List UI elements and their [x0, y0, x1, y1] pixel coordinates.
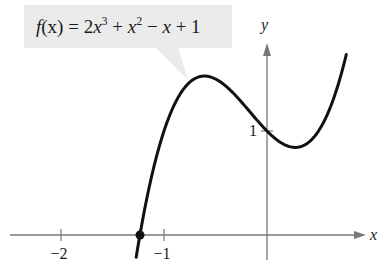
callout-formula: f(x) = 2x3 + x2 − x + 1	[36, 14, 201, 38]
formula-eq: = 2	[63, 16, 93, 37]
chart: f(x) = 2x3 + x2 − x + 1 x y −2−11	[0, 0, 388, 278]
formula-plus1: +	[108, 16, 128, 37]
x-tick-label: −1	[153, 245, 170, 262]
x-tick-label: −2	[50, 245, 67, 262]
y-axis-label: y	[259, 16, 269, 34]
function-curve	[136, 54, 346, 257]
x-axis-label: x	[369, 226, 377, 243]
callout-pointer	[155, 47, 188, 80]
y-tick-label: 1	[249, 122, 257, 139]
formula-arg: (x)	[41, 16, 63, 38]
y-axis-arrow	[263, 43, 271, 56]
x-intercept-point	[136, 231, 145, 240]
formula-tail: + 1	[171, 16, 201, 37]
x-axis-arrow	[354, 231, 366, 239]
formula-minus: −	[142, 16, 162, 37]
